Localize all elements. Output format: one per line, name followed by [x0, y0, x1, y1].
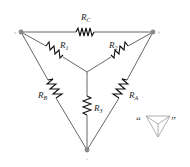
close-quote: ” — [171, 114, 176, 126]
label-r3: R3 — [93, 103, 103, 114]
open-quote: “ — [136, 114, 141, 126]
label-r2: R2 — [108, 40, 118, 51]
resistor-rb — [47, 79, 62, 98]
resistor-rc — [76, 28, 94, 36]
label-rb: RB — [37, 90, 48, 101]
node-a-label: a — [14, 30, 16, 35]
wire-rb-c — [56, 98, 87, 150]
wire-ra-c — [87, 98, 119, 150]
label-r1: R1 — [59, 40, 69, 51]
delta-wye-icon: “ ” — [136, 114, 176, 137]
icon-wye-branch-left — [146, 116, 158, 124]
wire-r1-center — [63, 57, 87, 72]
label-ra: RA — [128, 90, 139, 101]
label-rc: RC — [80, 12, 92, 23]
resistor-r3 — [83, 96, 91, 115]
icon-wye-branch-right — [158, 116, 170, 124]
node-c-label: c — [86, 156, 88, 161]
resistor-ra — [113, 79, 128, 98]
node-b — [151, 30, 156, 35]
wire-r2-center — [87, 57, 111, 72]
node-a — [19, 30, 24, 35]
delta-wye-circuit: a b c RC R1 R2 RB RA R3 “ ” — [0, 0, 190, 167]
node-c — [85, 148, 90, 153]
node-b-label: b — [158, 30, 160, 35]
